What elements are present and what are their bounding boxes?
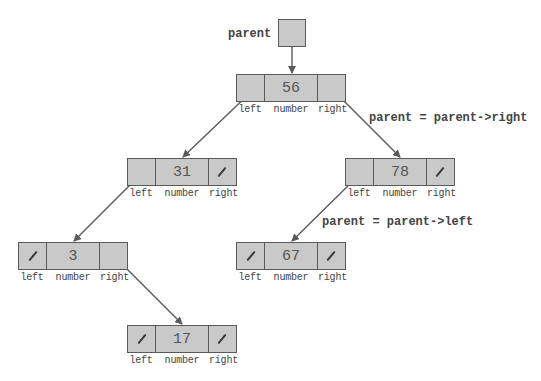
left-label: left	[18, 272, 46, 286]
parent-label: parent	[228, 27, 271, 41]
number-label: number	[264, 104, 318, 118]
right-label: right	[318, 104, 346, 118]
right-pointer-cell	[209, 326, 236, 352]
null-pointer-icon	[218, 334, 227, 344]
caption-parent-right: parent = parent->right	[369, 111, 527, 125]
right-label: right	[209, 355, 237, 369]
right-label: right	[318, 272, 346, 286]
number-cell: 3	[46, 243, 99, 269]
null-pointer-icon	[327, 251, 336, 261]
right-pointer-cell	[318, 75, 345, 101]
tree-node-17: 17	[127, 325, 237, 353]
edge-78-left-to-67	[292, 177, 357, 241]
null-pointer-icon	[218, 167, 227, 177]
left-pointer-cell	[346, 159, 373, 185]
number-cell: 31	[155, 159, 208, 185]
left-pointer-cell	[19, 243, 46, 269]
tree-node-56: 56	[236, 74, 346, 102]
left-pointer-cell	[128, 326, 155, 352]
number-cell: 78	[373, 159, 426, 185]
number-label: number	[46, 272, 100, 286]
number-label: number	[155, 355, 209, 369]
number-cell: 56	[264, 75, 317, 101]
null-pointer-icon	[246, 251, 255, 261]
field-labels: left number right	[236, 272, 346, 286]
tree-node-78: 78	[345, 158, 455, 186]
tree-edges	[0, 0, 541, 381]
left-pointer-cell	[237, 75, 264, 101]
tree-node-31: 31	[127, 158, 237, 186]
field-labels: left number right	[127, 188, 237, 202]
left-pointer-cell	[128, 159, 155, 185]
right-pointer-cell	[427, 159, 454, 185]
field-labels: left number right	[127, 355, 237, 369]
field-labels: left number right	[345, 188, 455, 202]
caption-parent-left: parent = parent->left	[322, 215, 473, 229]
null-pointer-icon	[436, 167, 445, 177]
number-cell: 67	[264, 243, 317, 269]
tree-node-67: 67	[236, 242, 346, 270]
parent-pointer-box	[278, 19, 306, 47]
right-label: right	[427, 188, 455, 202]
tree-node-3: 3	[18, 242, 128, 270]
right-pointer-cell	[100, 243, 127, 269]
left-label: left	[345, 188, 373, 202]
right-pointer-cell	[318, 243, 345, 269]
right-pointer-cell	[209, 159, 236, 185]
number-label: number	[264, 272, 318, 286]
edge-31-left-to-3	[74, 177, 138, 241]
number-cell: 17	[155, 326, 208, 352]
left-label: left	[127, 188, 155, 202]
null-pointer-icon	[28, 251, 37, 261]
left-pointer-cell	[237, 243, 264, 269]
left-label: left	[236, 104, 264, 118]
right-label: right	[209, 188, 237, 202]
field-labels: left number right	[236, 104, 346, 118]
null-pointer-icon	[137, 334, 146, 344]
field-labels: left number right	[18, 272, 128, 286]
number-label: number	[373, 188, 427, 202]
left-label: left	[236, 272, 264, 286]
left-label: left	[127, 355, 155, 369]
number-label: number	[155, 188, 209, 202]
binary-tree-diagram: parent parent = parent->right parent = p…	[0, 0, 541, 381]
right-label: right	[100, 272, 128, 286]
